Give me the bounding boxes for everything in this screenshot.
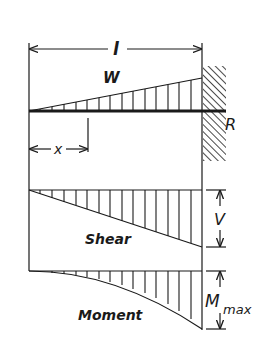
shear-title: Shear (85, 231, 132, 247)
fixed-wall (203, 66, 226, 161)
span-label: l (113, 39, 120, 59)
reaction-label: R (225, 115, 236, 134)
moment-title: Moment (78, 307, 144, 323)
position-label: x (53, 141, 63, 157)
load-label: W (103, 69, 121, 87)
moment-subscript: max (223, 302, 252, 317)
moment-value-label: M (205, 291, 220, 311)
shear-value-label: V (214, 210, 226, 229)
beam-diagram: l W R x Shear V Moment M max (0, 0, 262, 361)
